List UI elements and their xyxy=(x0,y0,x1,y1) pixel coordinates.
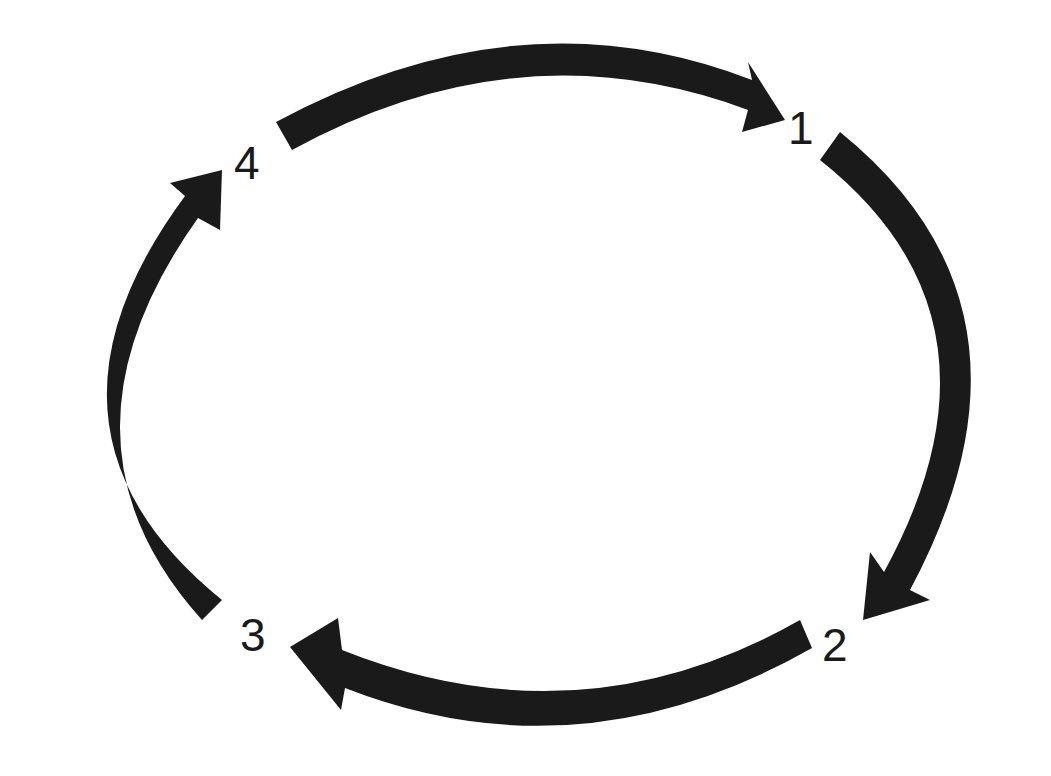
node-label-1: 1 xyxy=(788,105,814,151)
arrow-2-to-3 xyxy=(290,618,812,726)
cycle-diagram xyxy=(0,0,1051,776)
node-label-2: 2 xyxy=(822,622,848,668)
node-label-4: 4 xyxy=(234,140,260,186)
arrow-4-to-1 xyxy=(276,44,785,150)
arrow-3-to-4 xyxy=(107,170,222,620)
arrow-1-to-2 xyxy=(820,132,971,620)
node-label-3: 3 xyxy=(240,612,266,658)
